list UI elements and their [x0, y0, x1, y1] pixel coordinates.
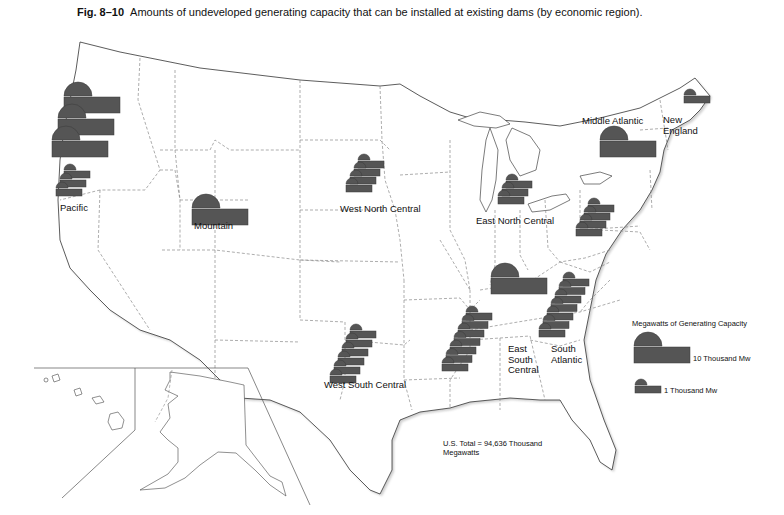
us-outline: [58, 42, 710, 494]
region-label-mountain: Mountain: [194, 220, 233, 231]
legend: Megawatts of Generating Capacity 10 Thou…: [632, 319, 751, 395]
legend-large-symbol: [634, 332, 690, 363]
us-map: PacificMountainWest North CentralEast No…: [0, 0, 784, 515]
hawaii-oahu: [74, 388, 82, 396]
region-label-west-south-central: West South Central: [324, 379, 406, 390]
region-label-west-north-central: West North Central: [340, 203, 421, 214]
hawaii-big-island: [108, 412, 124, 430]
region-label-east-north-central: East North Central: [476, 215, 554, 226]
region-label-middle-atlantic: Middle Atlantic: [582, 115, 644, 126]
legend-small-label: 1 Thousand Mw: [664, 386, 718, 395]
total-note: U.S. Total = 94,636 Thousand Megawatts: [443, 439, 542, 457]
hawaii-maui: [92, 396, 104, 404]
legend-large-label: 10 Thousand Mw: [693, 354, 751, 363]
total-line-1: U.S. Total = 94,636 Thousand: [443, 439, 542, 448]
total-line-2: Megawatts: [443, 448, 480, 457]
legend-title: Megawatts of Generating Capacity: [632, 319, 747, 328]
region-label-pacific: Pacific: [60, 202, 88, 213]
legend-small-symbol: [635, 379, 661, 393]
hawaii-kauai: [52, 374, 60, 382]
